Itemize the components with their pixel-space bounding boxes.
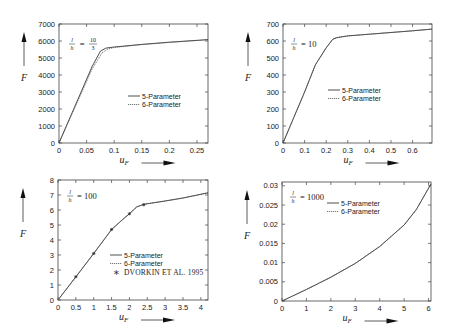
legend-label: 5-Parameter: [341, 200, 381, 207]
legend-label: 5-Parameter: [142, 93, 182, 100]
x-tick-label: 2: [127, 303, 131, 312]
chart-panel-2: 010020030040050060070000.10.20.30.40.50.…: [244, 20, 432, 167]
chart-panel-3: 01234567800.511.522.533.545-Parameter6-P…: [19, 176, 208, 324]
series-line: [58, 193, 208, 300]
x-tick-label: 3: [353, 304, 357, 313]
x-tick-label: 2.5: [142, 303, 152, 312]
x-tick-label: 0.4: [364, 146, 374, 155]
y-tick-label: 0.03: [263, 181, 278, 190]
y-tick-label: 0: [51, 139, 55, 148]
y-tick-label: 1: [50, 281, 54, 290]
y-tick-label: 4000: [38, 71, 55, 80]
x-tick-label: 1.5: [106, 303, 116, 312]
y-tick-label: 5000: [38, 54, 55, 63]
x-tick-label: 0.5: [386, 146, 396, 155]
y-tick-label: 0.01: [263, 258, 278, 267]
y-tick-label: 2: [50, 266, 54, 275]
y-tick-label: 400: [266, 71, 279, 80]
x-tick-label: 0.1: [299, 146, 309, 155]
y-tick-label: 1000: [38, 122, 55, 131]
y-tick-label: 700: [266, 20, 279, 29]
y-tick-label: 0: [275, 139, 279, 148]
y-tick-label: 4: [50, 236, 54, 245]
svg-text:l: l: [69, 189, 71, 195]
x-tick-label: 0.2: [321, 146, 331, 155]
svg-text:10: 10: [90, 37, 96, 43]
svg-text:l: l: [292, 190, 294, 196]
y-tick-label: 0: [274, 297, 278, 306]
svg-text:l: l: [293, 37, 295, 43]
y-tick-label: 200: [266, 105, 279, 114]
x-tick-label: 0.15: [134, 146, 149, 155]
legend-label: 6-Parameter: [124, 260, 164, 267]
y-tick-label: 600: [266, 37, 279, 46]
x-tick-label: 3: [163, 303, 167, 312]
y-tick-label: 2000: [38, 105, 55, 114]
x-tick-label: 0.1: [109, 146, 119, 155]
series-line: [58, 193, 208, 300]
y-axis-label: F: [243, 230, 251, 241]
x-axis-arrow-icon: [387, 319, 399, 324]
x-tick-label: 1: [304, 304, 308, 313]
x-tick-label: 0.05: [79, 146, 94, 155]
x-tick-label: 1: [92, 303, 96, 312]
svg-text:3: 3: [92, 45, 95, 51]
y-tick-label: 300: [266, 88, 279, 97]
y-axis-arrow-icon: [21, 188, 26, 198]
data-marker: [142, 203, 145, 206]
x-tick-label: 3.5: [178, 303, 188, 312]
x-axis-arrow-icon: [164, 161, 176, 166]
y-axis-arrow-icon: [246, 32, 251, 42]
y-tick-label: 0.015: [259, 239, 278, 248]
svg-text:=: =: [79, 39, 85, 49]
x-axis-arrow-icon: [388, 161, 400, 166]
y-axis-label: F: [19, 228, 27, 239]
y-tick-label: 0.005: [259, 277, 278, 286]
legend-label: DVORKIN ET AL. 1995: [124, 268, 204, 277]
y-tick-label: 3000: [38, 88, 55, 97]
legend-label: 6-Parameter: [342, 95, 382, 102]
chart-panel-1: 0100020003000400050006000700000.050.10.1…: [20, 20, 208, 167]
y-tick-label: 0: [50, 296, 54, 305]
y-tick-label: 0.025: [259, 201, 278, 210]
x-tick-label: 4: [199, 303, 203, 312]
svg-text:h: h: [71, 45, 74, 51]
x-tick-label: 0: [280, 304, 284, 313]
x-tick-label: 6: [426, 304, 430, 313]
y-tick-label: 7000: [38, 20, 55, 29]
x-tick-label: 0: [57, 146, 61, 155]
x-tick-label: 0.25: [190, 146, 205, 155]
y-axis-label: F: [244, 72, 252, 83]
svg-text:h: h: [292, 198, 295, 204]
legend-label: 6-Parameter: [142, 101, 182, 108]
y-tick-label: 6: [50, 206, 54, 215]
legend-label: 5-Parameter: [342, 87, 382, 94]
ratio-annotation: = 10: [301, 39, 316, 49]
figure-canvas: 0100020003000400050006000700000.050.10.1…: [0, 0, 450, 334]
x-axis-arrow-icon: [163, 318, 175, 323]
chart-panel-4: 00.0050.010.0150.020.0250.0301234565-Par…: [243, 181, 431, 325]
x-tick-label: 4: [378, 304, 382, 313]
x-tick-label: 0: [281, 146, 285, 155]
y-tick-label: 3: [50, 251, 54, 260]
ratio-annotation: = 1000: [300, 192, 324, 202]
legend-label: 6-Parameter: [341, 208, 381, 215]
y-tick-label: 0.02: [263, 220, 278, 229]
x-axis-label: uF: [344, 154, 354, 167]
y-axis-arrow-icon: [22, 32, 27, 42]
y-tick-label: 500: [266, 54, 279, 63]
x-axis-label: uF: [119, 311, 129, 324]
y-tick-label: 100: [266, 122, 279, 131]
x-tick-label: 2: [329, 304, 333, 313]
x-tick-label: 5: [402, 304, 406, 313]
x-axis-label: uF: [120, 154, 130, 167]
svg-text:h: h: [69, 197, 72, 203]
series-line: [59, 40, 208, 143]
svg-text:l: l: [71, 37, 73, 43]
ratio-annotation: = 100: [77, 191, 97, 201]
x-tick-label: 0.6: [407, 146, 417, 155]
y-tick-label: 7: [50, 191, 54, 200]
x-axis-label: uF: [343, 312, 353, 325]
svg-text:h: h: [293, 45, 296, 51]
svg-text:∗: ∗: [113, 268, 120, 277]
